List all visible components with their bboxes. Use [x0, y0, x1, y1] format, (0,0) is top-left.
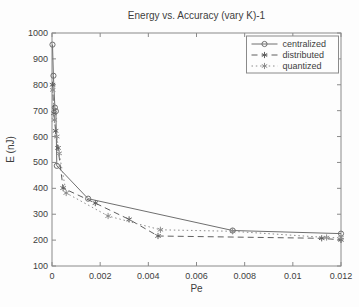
y-tick-label: 300 — [33, 209, 48, 219]
x-tick-label: 0.008 — [233, 271, 256, 281]
x-tick-label: 0 — [49, 271, 54, 281]
y-tick-label: 800 — [33, 80, 48, 90]
x-tick-label: 0.01 — [284, 271, 302, 281]
data-point-asterisk-marker — [57, 150, 62, 156]
data-point-asterisk-marker — [126, 216, 131, 222]
y-tick-label: 500 — [33, 157, 48, 167]
x-tick-label: 0.004 — [137, 271, 160, 281]
y-tick-label: 200 — [33, 235, 48, 245]
y-tick-label: 900 — [33, 54, 48, 64]
series-line-quantized — [53, 90, 341, 238]
figure: Energy vs. Accuracy (vary K)-1 E (nJ) Pe… — [0, 0, 359, 307]
legend-label-quantized: quantized — [283, 61, 322, 71]
x-tick-label: 0.002 — [89, 271, 112, 281]
y-tick-label: 100 — [33, 261, 48, 271]
y-tick-label: 400 — [33, 183, 48, 193]
y-tick-label: 700 — [33, 106, 48, 116]
y-tick-label: 1000 — [28, 28, 48, 38]
y-tick-label: 600 — [33, 132, 48, 142]
chart-canvas: 00.0020.0040.0060.0080.010.0121002003004… — [0, 0, 359, 307]
legend-label-distributed: distributed — [283, 50, 325, 60]
data-point-asterisk-marker — [64, 190, 69, 196]
legend-label-centralized: centralized — [283, 39, 327, 49]
x-tick-label: 0.012 — [330, 271, 353, 281]
x-tick-label: 0.006 — [185, 271, 208, 281]
series-line-distributed — [53, 85, 342, 240]
data-point-asterisk-marker — [105, 213, 110, 219]
